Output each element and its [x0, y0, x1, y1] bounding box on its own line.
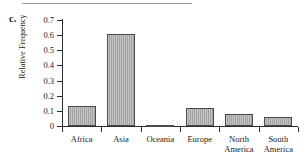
- bar-asia: [107, 34, 135, 126]
- x-tick-1: [101, 127, 102, 132]
- y-tick-4: [57, 65, 62, 66]
- x-label-north-america: NorthAmerica: [219, 134, 258, 154]
- y-tick-label-0: 0: [50, 122, 54, 131]
- x-label-line: Asia: [101, 134, 140, 144]
- y-tick-7: [57, 20, 62, 21]
- x-label-line: South: [259, 134, 298, 144]
- x-label-line: Africa: [62, 134, 101, 144]
- y-tick-2: [57, 96, 62, 97]
- bar-south-america: [264, 117, 292, 126]
- y-tick-label-2: 0.2: [43, 92, 54, 101]
- y-axis-line: [62, 19, 63, 127]
- x-label-oceania: Oceania: [141, 134, 180, 144]
- x-label-line: Europe: [180, 134, 219, 144]
- x-label-line: Oceania: [141, 134, 180, 144]
- x-tick-6: [298, 127, 299, 132]
- x-tick-2: [141, 127, 142, 132]
- y-tick-6: [57, 35, 62, 36]
- x-tick-3: [180, 127, 181, 132]
- bar-africa: [68, 106, 96, 126]
- x-tick-0: [62, 127, 63, 132]
- x-label-africa: Africa: [62, 134, 101, 144]
- bar-europe: [186, 108, 214, 126]
- x-tick-4: [219, 127, 220, 132]
- bar-chart-plot: 00.10.20.30.40.50.60.7 AfricaAsiaOceania…: [0, 0, 305, 158]
- x-label-line: America: [259, 144, 298, 154]
- bar-north-america: [225, 114, 253, 126]
- bar-oceania: [146, 125, 174, 127]
- x-label-asia: Asia: [101, 134, 140, 144]
- x-label-line: America: [219, 144, 258, 154]
- y-tick-label-3: 0.3: [43, 77, 54, 86]
- y-tick-label-1: 0.1: [43, 107, 54, 116]
- x-label-europe: Europe: [180, 134, 219, 144]
- x-label-line: North: [219, 134, 258, 144]
- y-tick-label-6: 0.6: [43, 31, 54, 40]
- y-tick-label-7: 0.7: [43, 16, 54, 25]
- y-tick-label-5: 0.5: [43, 46, 54, 55]
- y-tick-5: [57, 50, 62, 51]
- y-tick-3: [57, 81, 62, 82]
- x-tick-5: [259, 127, 260, 132]
- y-tick-1: [57, 111, 62, 112]
- x-label-south-america: SouthAmerica: [259, 134, 298, 154]
- y-tick-label-4: 0.4: [43, 61, 54, 70]
